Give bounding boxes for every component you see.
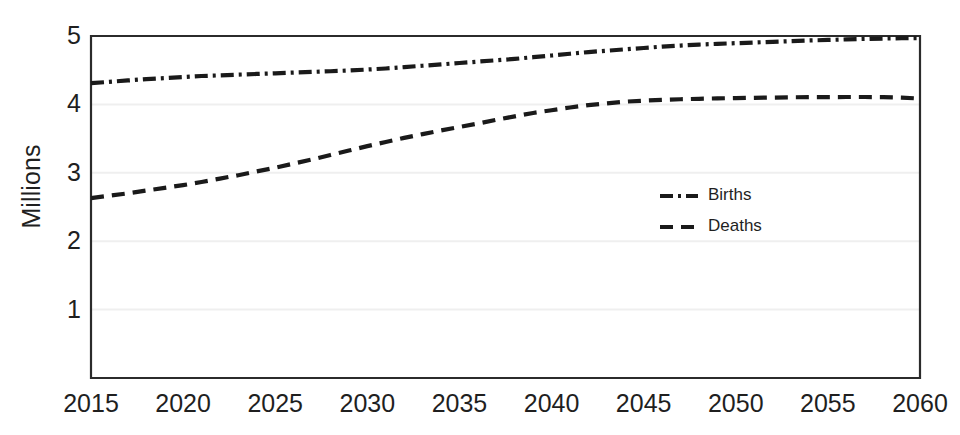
plot-frame [91,36,920,378]
legend-swatch-births [660,189,698,203]
series-line-deaths [91,97,920,198]
chart-figure: Millions 12345 2015202020252030203520402… [0,0,960,435]
legend-swatch-deaths [660,220,698,234]
plot-area [0,0,960,435]
series-line-births [91,38,920,83]
legend-label-births: Births [708,185,751,205]
legend-label-deaths: Deaths [708,216,762,236]
